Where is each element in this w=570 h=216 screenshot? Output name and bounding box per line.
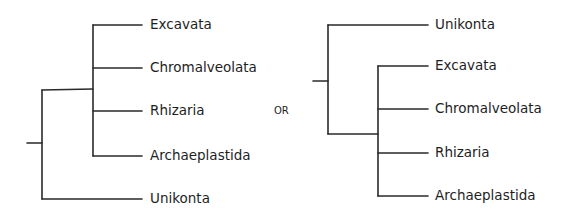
left-leaf-label: Rhizaria <box>150 102 205 118</box>
phylogeny-diagram: Excavata Chromalveolata Rhizaria Archaep… <box>0 0 570 216</box>
right-tree: Unikonta Excavata Chromalveolata Rhizari… <box>313 16 542 203</box>
or-connector-label: OR <box>274 105 289 116</box>
right-leaf-label: Unikonta <box>435 16 495 32</box>
left-leaf-label: Archaeplastida <box>150 147 251 163</box>
right-leaf-label: Rhizaria <box>435 144 490 160</box>
left-leaf-label: Unikonta <box>150 190 210 206</box>
left-leaf-label: Chromalveolata <box>150 59 257 75</box>
right-leaf-label: Archaeplastida <box>435 187 536 203</box>
left-tree: Excavata Chromalveolata Rhizaria Archaep… <box>27 16 257 206</box>
right-leaf-label: Chromalveolata <box>435 100 542 116</box>
right-leaf-label: Excavata <box>435 57 497 73</box>
left-inner-join <box>42 89 93 90</box>
left-leaf-label: Excavata <box>150 16 212 32</box>
